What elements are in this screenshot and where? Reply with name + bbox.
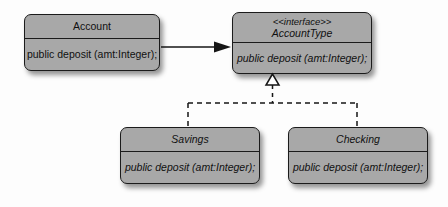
class-body-checking: public deposit (amt:Integer); [289,152,427,183]
class-name-account: Account [73,20,111,33]
realization-accounttype [188,74,357,127]
filled-arrowhead-icon [214,42,231,53]
interface-stereotype-label: <<interface>> [273,16,332,27]
uml-class-diagram: Account public deposit (amt:Integer); <<… [0,0,448,207]
class-name-checking: Checking [336,133,380,146]
class-body-account: public deposit (amt:Integer); [25,39,159,70]
class-body-savings: public deposit (amt:Integer); [121,152,259,183]
interface-body-accounttype: public deposit (amt:Integer); [233,43,371,73]
class-method-account: public deposit (amt:Integer); [27,48,157,61]
hollow-triangle-icon [266,74,279,85]
class-box-account[interactable]: Account public deposit (amt:Integer); [24,14,160,71]
interface-box-accounttype[interactable]: <<interface>> AccountType public deposit… [232,12,372,74]
interface-name-accounttype: AccountType [272,27,333,40]
class-header-savings: Savings [121,128,259,152]
class-box-savings[interactable]: Savings public deposit (amt:Integer); [120,127,260,184]
association-account-to-accounttype [161,42,231,53]
interface-header-accounttype: <<interface>> AccountType [233,13,371,43]
class-box-checking[interactable]: Checking public deposit (amt:Integer); [288,127,428,184]
class-method-savings: public deposit (amt:Integer); [125,161,255,174]
interface-method-accounttype: public deposit (amt:Integer); [237,52,367,65]
class-header-account: Account [25,15,159,39]
class-name-savings: Savings [171,133,208,146]
class-header-checking: Checking [289,128,427,152]
class-method-checking: public deposit (amt:Integer); [293,161,423,174]
